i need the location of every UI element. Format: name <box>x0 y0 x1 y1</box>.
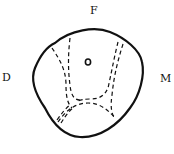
canal-line-lower-left-2 <box>57 105 70 120</box>
central-dot <box>85 59 90 65</box>
tooth-outline <box>33 29 143 137</box>
tooth-diagram <box>0 0 174 154</box>
canal-line-left-outer <box>52 48 72 108</box>
canal-line-right-outer <box>111 44 123 118</box>
canal-arc-lower <box>58 103 115 122</box>
canal-line-left-inner <box>69 38 81 100</box>
